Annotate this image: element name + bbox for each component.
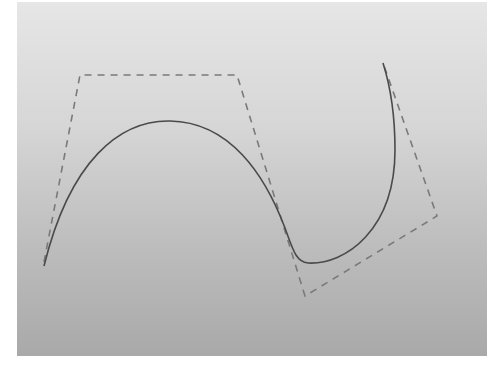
diagram-canvas xyxy=(0,0,502,378)
bezier-figure xyxy=(0,0,502,378)
bezier-curve xyxy=(44,63,395,266)
control-polygon xyxy=(44,63,437,296)
